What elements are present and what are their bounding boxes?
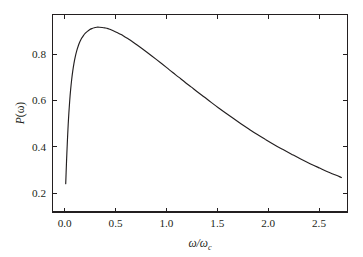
y-tick-label: 0.4 (32, 141, 46, 153)
y-tick-label: 0.6 (32, 94, 46, 106)
y-tick-label: 0.2 (32, 187, 46, 199)
x-tick-label: 0.0 (58, 217, 72, 229)
plot-background (0, 0, 363, 257)
x-tick-label: 2.0 (261, 217, 275, 229)
figure-canvas: 0.00.51.01.52.02.5 0.20.40.60.8 ω/ωc P(ω… (0, 0, 363, 257)
x-tick-label: 1.5 (210, 217, 224, 229)
y-axis-title: P(ω) (14, 102, 27, 126)
x-tick-label: 0.5 (109, 217, 123, 229)
y-tick-label: 0.8 (32, 48, 46, 60)
synchrotron-power-spectrum-plot: 0.00.51.01.52.02.5 0.20.40.60.8 ω/ωc P(ω… (0, 0, 363, 257)
x-tick-label: 2.5 (312, 217, 326, 229)
x-tick-label: 1.0 (159, 217, 173, 229)
